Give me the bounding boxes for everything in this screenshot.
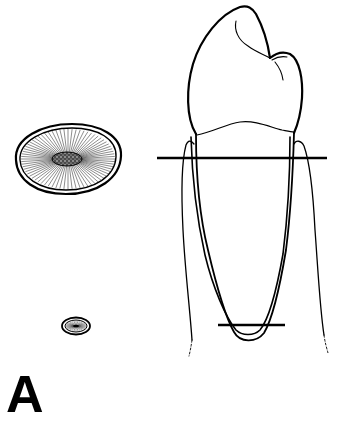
tooth <box>182 6 328 356</box>
root-cross-section-cervical <box>16 124 121 194</box>
crown-outline <box>188 6 302 134</box>
pulp-canal <box>52 152 82 166</box>
dental-diagram <box>0 0 349 433</box>
cusp-ridge-line <box>272 57 287 80</box>
crown-ridge-line <box>236 21 271 58</box>
root-cross-section-apical <box>62 318 90 335</box>
alveolar-bone-right <box>294 141 324 335</box>
cemento-enamel-junction <box>197 122 294 135</box>
alveolar-bone-right-dashed <box>324 335 328 353</box>
alveolar-bone-left-dashed <box>189 340 192 356</box>
panel-label: A <box>6 368 44 420</box>
small-pulp-canal <box>73 325 79 328</box>
root-outer <box>196 133 294 340</box>
